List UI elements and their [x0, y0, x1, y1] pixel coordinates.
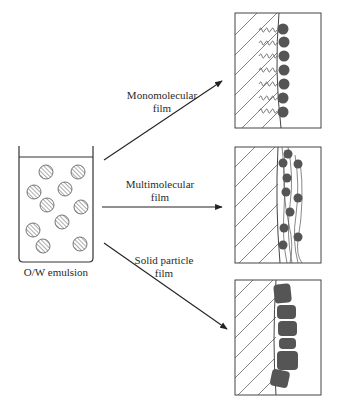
label-solid-particle-line2: film — [122, 267, 206, 280]
label-monomolecular-line1: Monomolecular — [120, 89, 204, 102]
label-monomolecular-line2: film — [120, 102, 204, 115]
label-multimolecular-line1: Multimolecular — [118, 178, 202, 191]
label-multimolecular: Multimolecular film — [118, 178, 202, 204]
label-solid-particle-line1: Solid particle — [122, 254, 206, 267]
surfactant-heads — [278, 24, 290, 118]
beaker — [19, 146, 93, 262]
oil-droplets — [26, 165, 88, 253]
panel-multimolecular — [235, 147, 321, 263]
panel-solid-particle — [235, 280, 321, 395]
label-monomolecular: Monomolecular film — [120, 89, 204, 115]
label-solid-particle: Solid particle film — [122, 254, 206, 280]
arrows — [102, 81, 227, 329]
panel-monomolecular — [235, 13, 321, 128]
label-multimolecular-line2: film — [118, 191, 202, 204]
label-ow-emulsion: O/W emulsion — [14, 266, 98, 279]
